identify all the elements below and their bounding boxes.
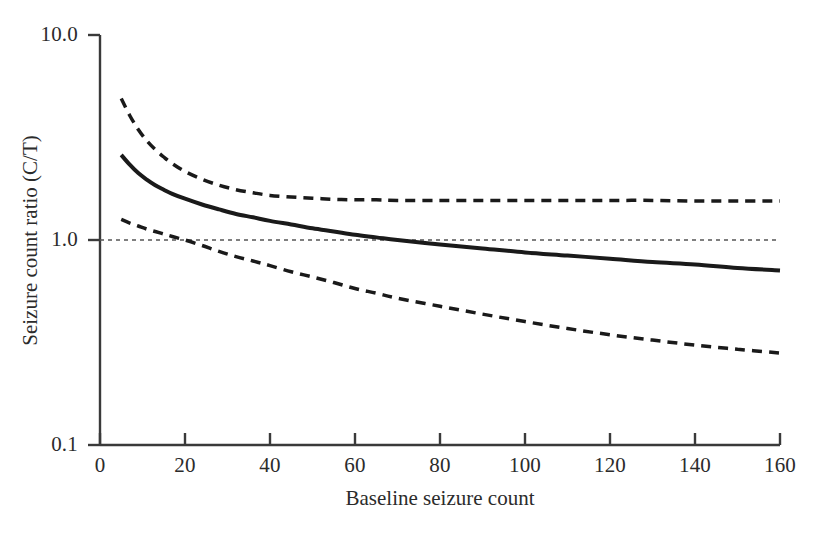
x-tick-marks	[100, 433, 780, 445]
x-tick-label-140: 140	[665, 455, 725, 476]
y-axis-title: Seizure count ratio (C/T)	[18, 111, 43, 371]
x-axis-title: Baseline seizure count	[260, 486, 620, 511]
x-tick-label-60: 60	[325, 455, 385, 476]
x-tick-label-20: 20	[155, 455, 215, 476]
x-tick-label-0: 0	[70, 455, 130, 476]
figure-container: 10.0 1.0 0.1 0 20 40 60 80 100 120 140 1…	[0, 0, 813, 534]
x-tick-label-80: 80	[410, 455, 470, 476]
x-tick-label-160: 160	[750, 455, 810, 476]
x-tick-label-100: 100	[495, 455, 555, 476]
x-tick-label-120: 120	[580, 455, 640, 476]
data-series-group	[121, 99, 780, 354]
series-line-1	[121, 99, 780, 202]
x-tick-label-40: 40	[240, 455, 300, 476]
y-tick-label-10: 10.0	[8, 24, 78, 45]
y-tick-label-0-1: 0.1	[8, 434, 78, 455]
